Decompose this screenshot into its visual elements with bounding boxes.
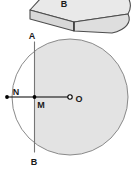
point-O-dot [68, 95, 72, 99]
solid-label-b: B [61, 0, 68, 9]
point-label-A: A [29, 31, 36, 41]
figure-canvas: B A B N M O [0, 0, 136, 172]
point-M-dot [33, 95, 37, 99]
point-N-dot [5, 95, 9, 99]
curved-wedge-solid: B [30, 0, 130, 33]
circle-diagram: A B N M O [5, 31, 128, 167]
point-label-B: B [31, 157, 38, 167]
geometry-figure: B A B N M O [0, 0, 136, 172]
point-label-O: O [75, 94, 82, 104]
point-label-N: N [13, 87, 20, 97]
point-label-M: M [37, 100, 45, 110]
